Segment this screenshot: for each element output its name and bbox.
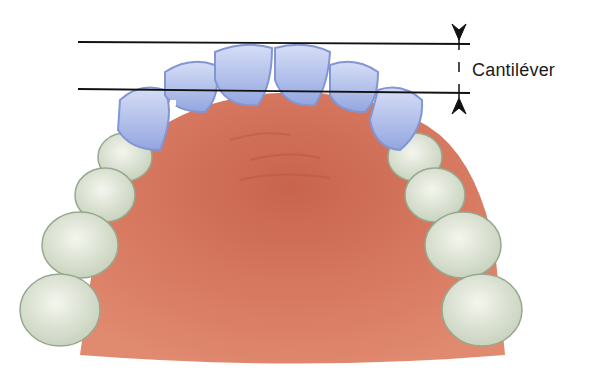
dental-diagram: Cantiléver (0, 0, 589, 374)
arch-illustration (0, 0, 589, 374)
cantilever-label: Cantiléver (472, 60, 555, 81)
dimension-marker (452, 24, 466, 114)
upper-reference-line (78, 42, 470, 44)
